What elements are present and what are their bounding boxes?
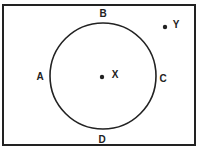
point-x-label: X [112, 69, 119, 80]
point-x-dot [100, 75, 104, 79]
label-b: B [99, 8, 106, 19]
label-d: D [98, 134, 105, 145]
diagram-canvas: A B C D X Y [0, 0, 201, 149]
label-a: A [36, 71, 43, 82]
label-c: C [159, 73, 166, 84]
point-y-label: Y [173, 19, 180, 30]
point-y-dot [163, 25, 167, 29]
